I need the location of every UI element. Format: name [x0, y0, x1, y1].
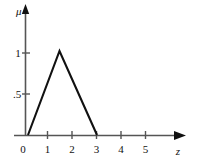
- y-tick-label-1: 1: [15, 47, 21, 59]
- x-axis-label: z: [175, 145, 181, 157]
- x-axis-arrow-icon: [174, 131, 186, 140]
- x-tick-label-5: 5: [143, 143, 149, 155]
- y-axis-label: μ: [15, 5, 22, 17]
- figure-container: μ z 1 .5 0 1 2 3 4 5: [0, 0, 197, 163]
- x-tick-label-1: 1: [45, 143, 51, 155]
- y-tick-label-half: .5: [13, 88, 22, 100]
- y-axis-arrow-icon: [22, 4, 29, 14]
- x-tick-label-4: 4: [118, 143, 124, 155]
- x-tick-label-2: 2: [69, 143, 75, 155]
- x-tick-label-0: 0: [20, 143, 26, 155]
- membership-function-chart: μ z 1 .5 0 1 2 3 4 5: [0, 0, 197, 163]
- membership-curve: [28, 51, 97, 135]
- x-tick-label-3: 3: [94, 143, 100, 155]
